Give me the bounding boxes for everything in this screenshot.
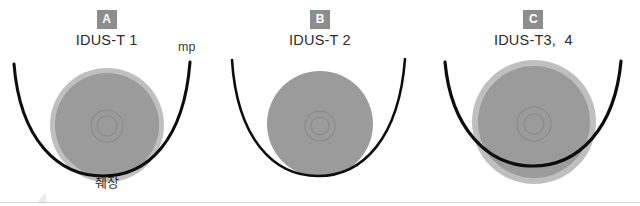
panel-c-header: C IDUS-T3, 4 [427, 0, 640, 48]
panel-b-title: IDUS-T 2 [213, 32, 426, 48]
scan-artifact [36, 192, 50, 204]
tumor-disc-b [267, 71, 373, 177]
idus-staging-figure: A IDUS-T 1 mp 췌장 [0, 0, 640, 206]
tumor-disc-c [478, 66, 590, 178]
panel-c-title: IDUS-T3, 4 [427, 32, 640, 48]
panel-c: C IDUS-T3, 4 [427, 0, 640, 206]
panel-a: A IDUS-T 1 mp 췌장 [0, 0, 213, 206]
pancreas-label: 췌장 [0, 172, 213, 191]
panel-a-header: A IDUS-T 1 [0, 0, 213, 48]
panel-a-title: IDUS-T 1 [0, 32, 213, 48]
panel-c-badge: C [523, 10, 543, 29]
panel-a-badge: A [97, 10, 117, 29]
bottom-divider [0, 202, 640, 203]
panel-b-badge: B [310, 10, 330, 29]
panel-b: B IDUS-T 2 [213, 0, 426, 206]
panel-b-header: B IDUS-T 2 [213, 0, 426, 48]
tumor-disc-a [55, 73, 159, 177]
